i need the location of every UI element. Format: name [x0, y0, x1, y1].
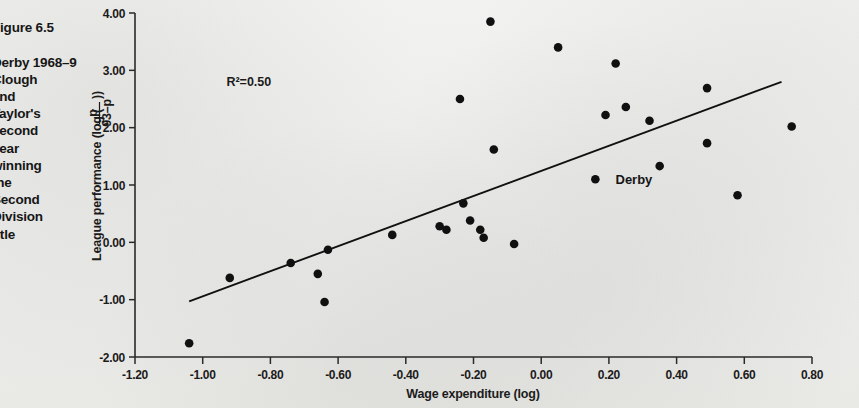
data-point[interactable] — [554, 43, 563, 52]
data-point[interactable] — [486, 17, 495, 26]
x-axis-tick-label: -0.20 — [461, 368, 487, 382]
x-axis-tick-label: -1.20 — [122, 368, 148, 382]
data-point[interactable] — [225, 274, 234, 283]
r-squared-annotation: R²=0.50 — [226, 75, 271, 89]
y-axis-tick-label: -1.00 — [99, 293, 125, 307]
x-axis-tick-label: -0.40 — [393, 368, 419, 382]
y-axis-label-prefix: League performance (log ( — [90, 108, 104, 261]
data-point[interactable] — [442, 225, 451, 234]
regression-trendline — [189, 82, 781, 302]
x-axis-tick-labels: -1.20-1.00-0.80-0.60-0.40-0.200.000.200.… — [122, 368, 824, 382]
data-point[interactable] — [185, 339, 194, 348]
data-point[interactable] — [622, 103, 631, 112]
data-point[interactable] — [787, 122, 796, 131]
data-point[interactable] — [459, 199, 468, 208]
y-axis-tick-label: 0.00 — [103, 236, 126, 250]
data-point[interactable] — [479, 233, 488, 242]
data-point[interactable] — [456, 95, 465, 104]
data-point[interactable] — [655, 162, 664, 171]
data-point[interactable] — [313, 270, 322, 279]
x-axis-tick-label: 0.20 — [598, 368, 621, 382]
data-point[interactable] — [476, 225, 485, 234]
scatter-chart: -2.00-1.000.001.002.003.004.00 -1.20-1.0… — [0, 0, 859, 408]
chart-axes — [129, 13, 812, 364]
y-axis-tick-label: -2.00 — [99, 351, 125, 365]
x-axis-tick-label: -1.00 — [190, 368, 216, 382]
chart-point-labels: Derby — [616, 172, 654, 187]
derby-point-label: Derby — [616, 172, 654, 187]
data-point[interactable] — [611, 59, 620, 68]
x-axis-tick-label: -0.80 — [257, 368, 283, 382]
y-axis-tick-label: 3.00 — [103, 64, 126, 78]
y-axis-ticks — [129, 13, 135, 357]
data-point[interactable] — [320, 298, 329, 307]
y-axis-tick-label: 4.00 — [103, 7, 126, 21]
data-point[interactable] — [286, 259, 295, 268]
data-point[interactable] — [591, 175, 600, 184]
data-point[interactable] — [324, 245, 333, 254]
data-point[interactable] — [703, 84, 712, 93]
svg-text:)): )) — [90, 91, 104, 99]
y-axis-label-suffix: )) — [90, 91, 104, 99]
x-axis-label: Wage expenditure (log) — [406, 387, 539, 401]
y-axis-tick-label: 1.00 — [103, 179, 126, 193]
data-point[interactable] — [466, 216, 475, 225]
x-axis-ticks — [135, 357, 812, 364]
data-point[interactable] — [703, 139, 712, 148]
y-axis-fraction-denominator: 93–p — [100, 99, 114, 127]
data-point[interactable] — [510, 240, 519, 249]
data-point[interactable] — [601, 111, 610, 120]
data-point-group — [185, 17, 796, 347]
data-point[interactable] — [733, 191, 742, 200]
x-axis-tick-label: 0.00 — [530, 368, 553, 382]
data-point[interactable] — [490, 145, 499, 154]
svg-text:League performance (log (: League performance (log ( — [90, 108, 104, 261]
x-axis-tick-label: -0.60 — [325, 368, 351, 382]
x-axis-tick-label: 0.40 — [666, 368, 689, 382]
x-axis-tick-label: 0.60 — [733, 368, 756, 382]
data-point[interactable] — [388, 231, 397, 240]
y-axis-fraction-numerator: p — [86, 109, 100, 117]
data-point[interactable] — [645, 116, 654, 125]
chart-annotations: R²=0.50 — [226, 75, 271, 89]
x-axis-tick-label: 0.80 — [801, 368, 824, 382]
